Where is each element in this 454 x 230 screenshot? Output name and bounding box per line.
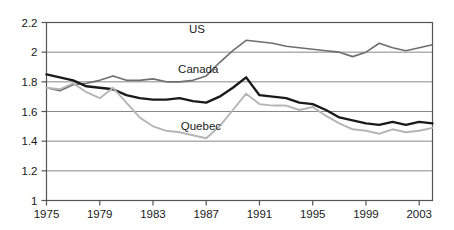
y-tick-label-1.8: 1.8: [22, 76, 38, 88]
series-label-quebec: Quebec: [181, 120, 222, 132]
x-tick-label-1979: 1979: [87, 208, 113, 220]
y-tick-label-2.2: 2.2: [22, 17, 38, 29]
x-tick-label-1995: 1995: [300, 208, 326, 220]
x-tick-label-1975: 1975: [34, 208, 60, 220]
chart-background: [0, 0, 454, 230]
x-tick-label-2003: 2003: [406, 208, 432, 220]
y-tick-label-1.4: 1.4: [22, 135, 39, 147]
series-label-us: US: [189, 23, 205, 35]
y-tick-label-1: 1: [31, 195, 37, 207]
x-tick-label-1987: 1987: [193, 208, 219, 220]
series-label-canada: Canada: [178, 63, 219, 75]
chart-canvas: 11.21.41.61.822.2 1975197919831987199119…: [0, 0, 454, 230]
y-tick-label-1.2: 1.2: [22, 165, 38, 177]
x-tick-label-1991: 1991: [247, 208, 273, 220]
y-tick-label-2: 2: [31, 46, 37, 58]
x-tick-label-1983: 1983: [140, 208, 166, 220]
line-chart-fertility-rates: 11.21.41.61.822.2 1975197919831987199119…: [0, 0, 454, 230]
y-tick-label-1.6: 1.6: [22, 106, 38, 118]
x-tick-label-1999: 1999: [353, 208, 379, 220]
